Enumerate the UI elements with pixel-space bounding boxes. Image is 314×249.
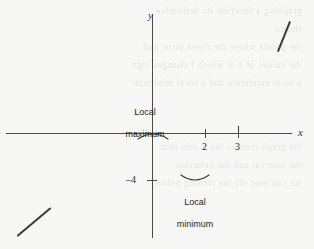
ghost-text-line: graphing a function its derivative (155, 6, 302, 16)
x-axis-label: x (298, 126, 303, 138)
local-maximum-annotation-line2: maximum (106, 129, 184, 140)
y-tick-label-minus-4: –4 (126, 174, 136, 185)
stray-stroke-bottom-left-icon (17, 207, 52, 237)
y-axis-label: y (148, 9, 153, 21)
x-tick-2 (205, 129, 206, 138)
x-intercept-mark-icon (238, 126, 239, 133)
ghost-text-line: the values of x at which f changes sign (131, 60, 302, 70)
stray-stroke-top-right-icon (277, 21, 291, 52)
local-minimum-annotation-line1: Local (158, 197, 232, 208)
y-tick-minus-4 (147, 180, 157, 181)
local-minimum-annotation-line2: minimum (158, 219, 232, 230)
local-minimum-annotation: Local minimum (158, 186, 232, 241)
figure-container: graphing a function its derivative shown… (0, 0, 314, 249)
local-maximum-annotation-line1: Local (106, 107, 184, 118)
local-maximum-annotation: Local maximum (106, 96, 184, 151)
x-tick-label-3: 3 (235, 141, 240, 152)
ghost-text-line: the interval and the behavior (176, 160, 302, 170)
x-tick-label-2: 2 (202, 141, 207, 152)
local-minimum-arc-icon (179, 173, 211, 185)
ghost-text-line: a local maximum and a local minimum (132, 78, 302, 88)
